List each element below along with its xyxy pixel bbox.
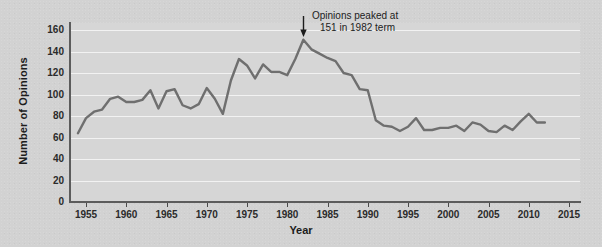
peak-annotation: Opinions peaked at 151 in 1982 term xyxy=(312,10,398,34)
annotation-down-arrow-icon xyxy=(299,16,308,38)
peak-annotation-line2: 151 in 1982 term xyxy=(312,22,398,34)
chart-figure: 020406080100120140160 195519601965197019… xyxy=(0,0,602,247)
peak-annotation-line1: Opinions peaked at xyxy=(312,10,398,22)
